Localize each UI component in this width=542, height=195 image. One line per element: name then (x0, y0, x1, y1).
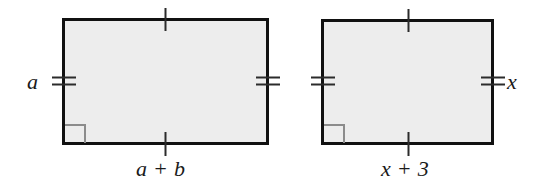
left-rectangle-body (64, 20, 268, 144)
left-rectangle-group (52, 8, 280, 156)
geometry-diagram-canvas (0, 0, 542, 195)
geometry-figure: a a + b x x + 3 (0, 0, 542, 195)
left-rectangle-base-label: a + b (136, 158, 185, 180)
right-rectangle-base-label: x + 3 (381, 158, 429, 180)
right-rectangle-body (323, 21, 493, 144)
left-rectangle-height-label: a (27, 71, 38, 93)
right-rectangle-group (311, 9, 505, 156)
right-rectangle-height-label: x (507, 71, 517, 93)
